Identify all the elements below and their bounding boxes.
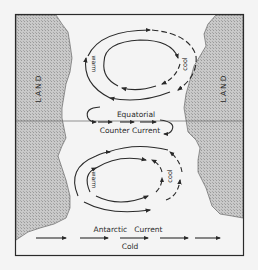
south-warm-label: warm xyxy=(91,172,98,189)
north-warm-label: warm xyxy=(91,56,98,73)
counter-current-label: Counter Current xyxy=(100,126,161,135)
land-left-label: LAND xyxy=(34,74,43,103)
north-gyre xyxy=(86,30,197,100)
south-cool-label: cool xyxy=(166,169,174,183)
land-right xyxy=(184,15,243,218)
land-right-label: LAND xyxy=(219,74,228,103)
north-cool-label: cool xyxy=(181,57,189,71)
antarctic-current-label: Antarctic Current xyxy=(94,225,163,234)
cold-label: Cold xyxy=(122,242,139,251)
ocean-circulation-diagram: LAND LAND warm cool warm cool Equatorial… xyxy=(0,0,258,270)
equatorial-label: Equatorial xyxy=(117,110,155,119)
land-left xyxy=(16,15,72,240)
